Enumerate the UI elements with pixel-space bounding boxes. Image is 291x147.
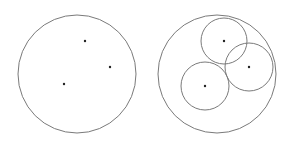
circle-packing-diagram bbox=[0, 0, 291, 147]
point-dot bbox=[223, 40, 225, 42]
outer-circle bbox=[158, 15, 276, 133]
point-dot bbox=[248, 66, 250, 68]
panel-points-only bbox=[18, 15, 136, 133]
outer-circle bbox=[18, 15, 136, 133]
point-dot bbox=[84, 40, 86, 42]
point-dot bbox=[204, 85, 206, 87]
point-dot bbox=[63, 83, 65, 85]
panel-points-with-circles bbox=[158, 15, 276, 133]
point-dot bbox=[109, 66, 111, 68]
